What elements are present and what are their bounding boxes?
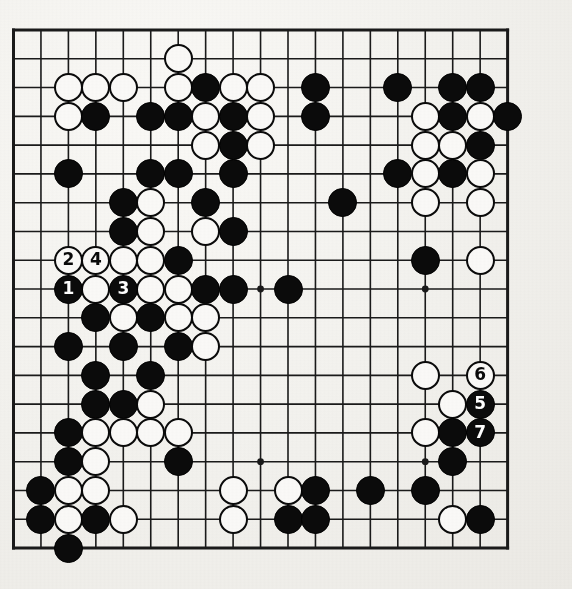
white-stone[interactable] (136, 188, 165, 217)
white-stone[interactable] (136, 275, 165, 304)
move-stone-3[interactable]: 3 (109, 275, 138, 304)
white-stone[interactable] (219, 505, 248, 534)
black-stone[interactable] (438, 102, 467, 131)
move-stone-4[interactable]: 4 (81, 246, 110, 275)
black-stone[interactable] (81, 102, 110, 131)
black-stone[interactable] (191, 275, 220, 304)
move-stone-6[interactable]: 6 (466, 361, 495, 390)
white-stone[interactable] (438, 505, 467, 534)
black-stone[interactable] (219, 159, 248, 188)
white-stone[interactable] (109, 246, 138, 275)
white-stone[interactable] (109, 505, 138, 534)
white-stone[interactable] (466, 102, 495, 131)
white-stone[interactable] (246, 102, 275, 131)
white-stone[interactable] (164, 73, 193, 102)
black-stone[interactable] (164, 447, 193, 476)
white-stone[interactable] (219, 476, 248, 505)
black-stone[interactable] (219, 217, 248, 246)
black-stone[interactable] (164, 332, 193, 361)
white-stone[interactable] (191, 303, 220, 332)
white-stone[interactable] (191, 332, 220, 361)
black-stone[interactable] (136, 159, 165, 188)
black-stone[interactable] (164, 246, 193, 275)
black-stone[interactable] (274, 505, 303, 534)
black-stone[interactable] (81, 390, 110, 419)
white-stone[interactable] (81, 447, 110, 476)
white-stone[interactable] (411, 131, 440, 160)
move-stone-2[interactable]: 2 (54, 246, 83, 275)
white-stone[interactable] (54, 476, 83, 505)
white-stone[interactable] (466, 188, 495, 217)
black-stone[interactable] (438, 73, 467, 102)
white-stone[interactable] (136, 418, 165, 447)
black-stone[interactable] (81, 303, 110, 332)
white-stone[interactable] (164, 275, 193, 304)
white-stone[interactable] (411, 159, 440, 188)
white-stone[interactable] (54, 505, 83, 534)
black-stone[interactable] (54, 159, 83, 188)
white-stone[interactable] (246, 131, 275, 160)
white-stone[interactable] (191, 217, 220, 246)
black-stone[interactable] (274, 275, 303, 304)
black-stone[interactable] (81, 361, 110, 390)
move-stone-1[interactable]: 1 (54, 275, 83, 304)
black-stone[interactable] (301, 102, 330, 131)
black-stone[interactable] (466, 131, 495, 160)
white-stone[interactable] (54, 102, 83, 131)
black-stone[interactable] (136, 361, 165, 390)
black-stone[interactable] (219, 102, 248, 131)
move-stone-7[interactable]: 7 (466, 418, 495, 447)
black-stone[interactable] (164, 159, 193, 188)
white-stone[interactable] (466, 246, 495, 275)
white-stone[interactable] (136, 390, 165, 419)
black-stone[interactable] (466, 505, 495, 534)
black-stone[interactable] (26, 476, 55, 505)
black-stone[interactable] (328, 188, 357, 217)
move-stone-5[interactable]: 5 (466, 390, 495, 419)
black-stone[interactable] (109, 188, 138, 217)
black-stone[interactable] (191, 188, 220, 217)
white-stone[interactable] (164, 303, 193, 332)
white-stone[interactable] (81, 275, 110, 304)
white-stone[interactable] (411, 361, 440, 390)
stones-layer[interactable]: 1234567 (0, 0, 572, 589)
white-stone[interactable] (81, 418, 110, 447)
white-stone[interactable] (164, 44, 193, 73)
white-stone[interactable] (191, 102, 220, 131)
white-stone[interactable] (54, 73, 83, 102)
black-stone[interactable] (301, 505, 330, 534)
black-stone[interactable] (301, 73, 330, 102)
white-stone[interactable] (274, 476, 303, 505)
white-stone[interactable] (219, 73, 248, 102)
black-stone[interactable] (383, 159, 412, 188)
black-stone[interactable] (26, 505, 55, 534)
black-stone[interactable] (54, 418, 83, 447)
black-stone[interactable] (438, 447, 467, 476)
black-stone[interactable] (109, 217, 138, 246)
black-stone[interactable] (466, 73, 495, 102)
white-stone[interactable] (191, 131, 220, 160)
white-stone[interactable] (109, 418, 138, 447)
white-stone[interactable] (411, 102, 440, 131)
white-stone[interactable] (438, 131, 467, 160)
black-stone[interactable] (438, 418, 467, 447)
black-stone[interactable] (54, 447, 83, 476)
white-stone[interactable] (164, 418, 193, 447)
white-stone[interactable] (438, 390, 467, 419)
white-stone[interactable] (109, 303, 138, 332)
black-stone[interactable] (411, 476, 440, 505)
white-stone[interactable] (466, 159, 495, 188)
white-stone[interactable] (136, 217, 165, 246)
black-stone[interactable] (164, 102, 193, 131)
black-stone[interactable] (356, 476, 385, 505)
white-stone[interactable] (81, 73, 110, 102)
black-stone[interactable] (438, 159, 467, 188)
black-stone[interactable] (54, 534, 83, 563)
white-stone[interactable] (136, 246, 165, 275)
black-stone[interactable] (301, 476, 330, 505)
black-stone[interactable] (219, 275, 248, 304)
white-stone[interactable] (411, 188, 440, 217)
black-stone[interactable] (383, 73, 412, 102)
black-stone[interactable] (109, 332, 138, 361)
black-stone[interactable] (411, 246, 440, 275)
